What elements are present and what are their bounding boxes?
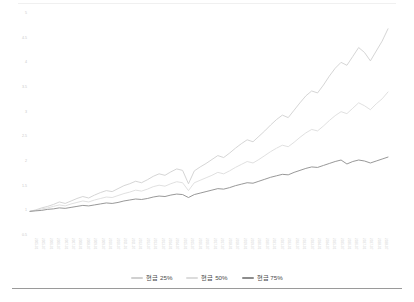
x-axis-tick-label: 2020-01 (257, 238, 260, 249)
x-axis-tick-label: 2028-07 (384, 238, 387, 249)
x-axis-tick-label: 2008-07 (86, 238, 89, 249)
x-axis-tick-label: 2006-07 (56, 238, 59, 249)
x-axis-tick-label: 2011-01 (123, 238, 126, 249)
x-axis-tick-label: 2006-01 (49, 238, 52, 249)
x-axis-tick-label: 2028-01 (377, 238, 380, 249)
x-axis-tick-label: 2020-07 (265, 238, 268, 249)
x-axis-tick-label: 2022-01 (287, 238, 290, 249)
series-line (30, 29, 388, 212)
x-axis-tick-label: 2016-07 (205, 238, 208, 249)
x-axis-tick-label: 2015-07 (190, 238, 193, 249)
x-axis-tick-label: 2012-07 (146, 238, 149, 249)
legend-label: 현금 75% (257, 275, 283, 281)
x-axis-tick-label: 2013-07 (160, 238, 163, 249)
y-axis-tick-label: 2.5 (22, 136, 27, 140)
x-axis-tick-label: 2007-01 (63, 238, 66, 249)
x-axis-tick-label: 2008-01 (78, 238, 81, 249)
x-axis-tick-label: 2018-01 (228, 238, 231, 249)
legend-label: 현금 50% (201, 275, 227, 281)
x-axis-tick-label: 2016-01 (198, 238, 201, 249)
x-axis-tick-label: 2009-07 (101, 238, 104, 249)
x-axis-tick-label: 2011-07 (131, 238, 134, 249)
y-axis-tick-label: 1.5 (22, 185, 27, 189)
plot-area (30, 14, 388, 236)
legend-item[interactable]: 현금 25% (131, 275, 172, 281)
x-axis-tick-label: 2027-07 (369, 238, 372, 249)
x-axis-tick-label: 2017-07 (220, 238, 223, 249)
legend-item[interactable]: 현금 75% (242, 275, 283, 281)
x-axis-tick-label: 2010-07 (116, 238, 119, 249)
x-axis-tick-label: 2021-07 (280, 238, 283, 249)
legend-line-swatch-icon (131, 277, 143, 278)
x-axis-tick-label: 2019-01 (242, 238, 245, 249)
x-axis-tick-label: 2005-07 (41, 238, 44, 249)
x-axis-tick-label: 2018-07 (235, 238, 238, 249)
x-axis-tick-label: 2009-01 (93, 238, 96, 249)
y-axis-tick-label: 1 (25, 210, 27, 214)
legend-label: 현금 25% (146, 275, 172, 281)
y-axis: 54.543.532.521.510.5 (0, 14, 30, 246)
legend-item[interactable]: 현금 50% (186, 275, 227, 281)
x-axis-tick-label: 2010-01 (108, 238, 111, 249)
x-axis-tick-label: 2023-01 (302, 238, 305, 249)
x-axis: 2005-012005-072006-012006-072007-012007-… (30, 238, 388, 266)
x-axis-tick-label: 2007-07 (71, 238, 74, 249)
y-axis-tick-label: 2 (25, 160, 27, 164)
x-axis-tick-label: 2012-01 (138, 238, 141, 249)
x-axis-tick-label: 2023-07 (310, 238, 313, 249)
x-axis-tick-label: 2025-07 (339, 238, 342, 249)
top-divider (18, 3, 396, 4)
x-axis-tick-label: 2024-01 (317, 238, 320, 249)
y-axis-tick-label: 3.5 (22, 86, 27, 90)
legend-line-swatch-icon (186, 277, 198, 278)
legend-line-swatch-icon (242, 277, 254, 278)
x-axis-tick-label: 2026-01 (347, 238, 350, 249)
x-axis-tick-label: 2022-07 (295, 238, 298, 249)
series-line (30, 157, 388, 211)
x-axis-tick-label: 2017-01 (213, 238, 216, 249)
x-axis-tick-label: 2024-07 (325, 238, 328, 249)
series-line (30, 92, 388, 211)
chart-figure: 54.543.532.521.510.5 2005-012005-072006-… (0, 0, 414, 302)
x-axis-tick-label: 2025-01 (332, 238, 335, 249)
chart-legend: 현금 25%현금 50%현금 75% (0, 272, 414, 284)
x-axis-tick-label: 2015-01 (183, 238, 186, 249)
bottom-divider (12, 288, 402, 289)
y-axis-tick-label: 4.5 (22, 37, 27, 41)
x-axis-tick-label: 2005-01 (34, 238, 37, 249)
x-axis-tick-label: 2027-01 (362, 238, 365, 249)
x-axis-tick-label: 2021-01 (272, 238, 275, 249)
line-series-group (30, 14, 388, 236)
x-axis-tick-label: 2026-07 (354, 238, 357, 249)
y-axis-tick-label: 4 (25, 62, 27, 66)
x-axis-tick-label: 2014-07 (175, 238, 178, 249)
x-axis-tick-label: 2014-01 (168, 238, 171, 249)
y-axis-tick-label: 5 (25, 12, 27, 16)
x-axis-tick-label: 2019-07 (250, 238, 253, 249)
y-axis-tick-label: 0.5 (22, 234, 27, 238)
y-axis-tick-label: 3 (25, 111, 27, 115)
x-axis-tick-label: 2013-01 (153, 238, 156, 249)
